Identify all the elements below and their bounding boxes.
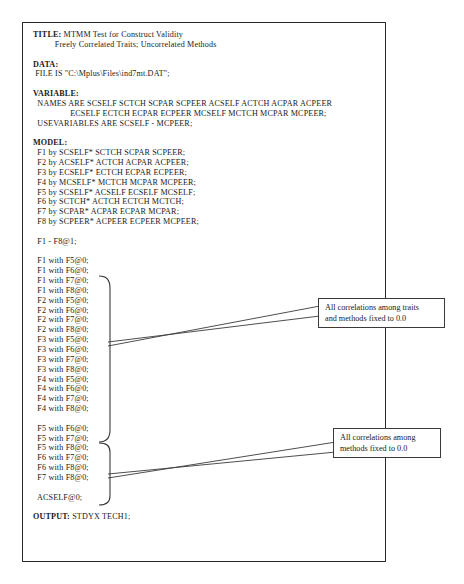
code-text: F1 with F8@0;	[33, 286, 89, 295]
code-line: VARIABLE:	[33, 89, 381, 99]
code-text: F3 with F5@0;	[33, 335, 89, 344]
code-line: F3 by ECSELF* ECTCH ECPAR ECPEER;	[33, 168, 381, 178]
code-text	[33, 227, 35, 236]
code-line	[33, 503, 381, 513]
code-text: F1 - F8@1;	[33, 237, 77, 246]
code-text: F1 with F7@0;	[33, 276, 89, 285]
code-line: F4 with F5@0;	[33, 375, 381, 385]
code-text: F4 with F5@0;	[33, 375, 89, 384]
code-text	[33, 128, 35, 137]
code-line: ECSELF ECTCH ECPAR ECPEER MCSELF MCTCH M…	[33, 109, 381, 119]
callout-methods-line2: methods fixed to 0.0	[340, 443, 435, 454]
code-line: F1 with F6@0;	[33, 266, 381, 276]
code-text: F5 with F6@0;	[33, 424, 89, 433]
code-text: F4 by MCSELF* MCTCH MCPAR MCPEER;	[33, 178, 196, 187]
code-keyword: OUTPUT:	[33, 512, 70, 521]
code-text: F2 by ACSELF* ACTCH ACPAR ACPEER;	[33, 158, 189, 167]
code-line: MODEL:	[33, 138, 381, 148]
code-line: F1 with F5@0;	[33, 256, 381, 266]
code-line	[33, 414, 381, 424]
code-text: F1 by SCSELF* SCTCH SCPAR SCPEER;	[33, 148, 185, 157]
code-line: TITLE: MTMM Test for Construct Validity	[33, 30, 381, 40]
code-text: F6 by SCTCH* ACTCH ECTCH MCTCH;	[33, 197, 184, 206]
code-text: F3 with F6@0;	[33, 345, 89, 354]
code-line: F2 by ACSELF* ACTCH ACPAR ACPEER;	[33, 158, 381, 168]
code-text: F3 by ECSELF* ECTCH ECPAR ECPEER;	[33, 168, 187, 177]
code-line: F1 with F7@0;	[33, 276, 381, 286]
code-text	[33, 414, 35, 423]
callout-traits-methods-line2: and methods fixed to 0.0	[325, 313, 439, 324]
code-line: F6 by SCTCH* ACTCH ECTCH MCTCH;	[33, 197, 381, 207]
code-text: F5 with F7@0;	[33, 434, 89, 443]
code-text: MTMM Test for Construct Validity	[61, 30, 183, 39]
code-text: F1 with F5@0;	[33, 256, 89, 265]
code-line: F4 with F7@0;	[33, 394, 381, 404]
code-text: ACSELF@0;	[33, 493, 82, 502]
code-text: F3 with F8@0;	[33, 365, 89, 374]
code-text: F6 with F8@0;	[33, 463, 89, 472]
code-text: F1 with F6@0;	[33, 266, 89, 275]
code-text	[33, 247, 35, 256]
code-line: F8 by SCPEER* ACPEER ECPEER MCPEER;	[33, 217, 381, 227]
leader-line-methods	[108, 440, 340, 482]
code-line	[33, 247, 381, 257]
code-line: F4 with F8@0;	[33, 404, 381, 414]
callout-methods-line1: All correlations among	[340, 432, 435, 443]
code-text: F7 by SCPAR* ACPAR ECPAR MCPAR;	[33, 207, 179, 216]
code-line: F1 by SCSELF* SCTCH SCPAR SCPEER;	[33, 148, 381, 158]
code-text: F4 with F6@0;	[33, 384, 89, 393]
code-line: F3 with F8@0;	[33, 365, 381, 375]
code-line	[33, 50, 381, 60]
code-text: STDYX TECH1;	[70, 512, 130, 521]
code-text	[33, 503, 35, 512]
code-line: DATA:	[33, 60, 381, 70]
code-text: ECSELF ECTCH ECPAR ECPEER MCSELF MCTCH M…	[33, 109, 326, 118]
code-text	[33, 50, 35, 59]
code-text: NAMES ARE SCSELF SCTCH SCPAR SCPEER ACSE…	[33, 99, 332, 108]
code-text: F2 with F6@0;	[33, 306, 89, 315]
code-line	[33, 79, 381, 89]
code-line: Freely Correlated Traits; Uncorrelated M…	[33, 40, 381, 50]
code-line	[33, 128, 381, 138]
code-line: F4 with F6@0;	[33, 384, 381, 394]
document-page: TITLE: MTMM Test for Construct Validity …	[0, 0, 464, 584]
code-text: F2 with F8@0;	[33, 325, 89, 334]
callout-traits-methods-line1: All correlations among traits	[325, 302, 439, 313]
code-text	[33, 483, 35, 492]
code-line	[33, 483, 381, 493]
code-line	[33, 227, 381, 237]
code-text: F4 with F8@0;	[33, 404, 89, 413]
code-text: USEVARIABLES ARE SCSELF - MCPEER;	[33, 119, 192, 128]
code-line: FILE IS "C:\Mplus\Files\ind7mt.DAT";	[33, 69, 381, 79]
code-line: NAMES ARE SCSELF SCTCH SCPAR SCPEER ACSE…	[33, 99, 381, 109]
code-line: F1 - F8@1;	[33, 237, 381, 247]
code-line: OUTPUT: STDYX TECH1;	[33, 512, 381, 522]
code-keyword: VARIABLE:	[33, 89, 79, 98]
code-line: F5 by SCSELF* ACSELF ECSELF MCSELF;	[33, 188, 381, 198]
code-text: F6 with F7@0;	[33, 453, 89, 462]
code-line: ACSELF@0;	[33, 493, 381, 503]
code-line: F3 with F7@0;	[33, 355, 381, 365]
leader-line-traits-methods	[108, 300, 324, 348]
code-text: F2 with F5@0;	[33, 296, 89, 305]
code-text: F5 with F8@0;	[33, 443, 89, 452]
code-text	[33, 79, 35, 88]
callout-traits-methods: All correlations among traits and method…	[318, 298, 445, 328]
code-text: FILE IS "C:\Mplus\Files\ind7mt.DAT";	[33, 69, 170, 78]
code-line: USEVARIABLES ARE SCSELF - MCPEER;	[33, 119, 381, 129]
code-line: F7 by SCPAR* ACPAR ECPAR MCPAR;	[33, 207, 381, 217]
code-keyword: TITLE:	[33, 30, 61, 39]
code-text: F3 with F7@0;	[33, 355, 89, 364]
callout-methods: All correlations among methods fixed to …	[333, 428, 441, 458]
code-line: F5 with F6@0;	[33, 424, 381, 434]
code-text: F7 with F8@0;	[33, 473, 89, 482]
code-keyword: DATA:	[33, 60, 58, 69]
code-text: F8 by SCPEER* ACPEER ECPEER MCPEER;	[33, 217, 199, 226]
code-line: F4 by MCSELF* MCTCH MCPAR MCPEER;	[33, 178, 381, 188]
code-line: F1 with F8@0;	[33, 286, 381, 296]
code-text: F4 with F7@0;	[33, 394, 89, 403]
code-keyword: MODEL:	[33, 138, 67, 147]
code-text: F5 by SCSELF* ACSELF ECSELF MCSELF;	[33, 188, 195, 197]
code-text: Freely Correlated Traits; Uncorrelated M…	[33, 40, 217, 49]
code-text: F2 with F7@0;	[33, 315, 89, 324]
